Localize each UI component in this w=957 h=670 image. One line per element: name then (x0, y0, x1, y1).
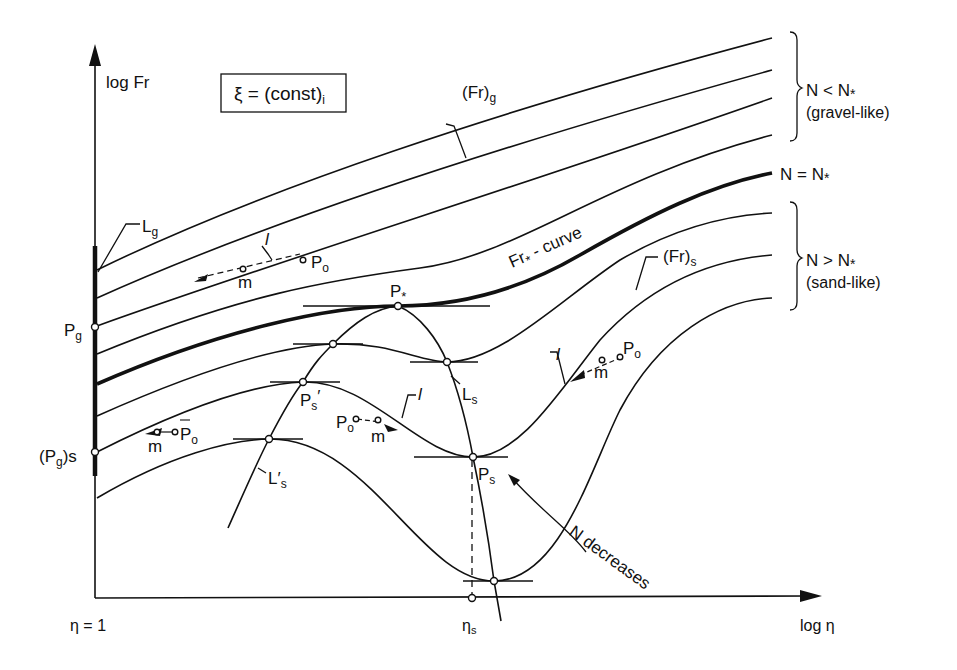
sand-like-sublabel: (sand-like) (806, 274, 881, 291)
point-p-g (92, 324, 99, 331)
point-p-s (470, 454, 477, 461)
svg-text:l: l (265, 230, 270, 249)
p-s-prime-label: Ps′ (300, 387, 321, 413)
fr-s-label: (Fr)s (663, 247, 696, 269)
sand-curves (97, 213, 772, 581)
diagram-canvas: ξ = (const)i log Fr η = 1 ηs log η N < N… (0, 0, 957, 670)
svg-text:l: l (556, 345, 561, 364)
svg-text:l: l (418, 385, 423, 404)
point-p-s-prime (300, 379, 307, 386)
n-decreases-label: N decreases (566, 522, 654, 593)
sand-like-label: N > N* (806, 251, 856, 272)
l-s-leader (451, 376, 460, 384)
gravel-like-label: N < N* (806, 81, 856, 102)
x-axis (95, 596, 808, 598)
curve-fr-s (97, 255, 772, 457)
svg-text:m: m (371, 427, 385, 446)
fr-s-leader (636, 257, 658, 290)
y-axis-label: log Fr (106, 73, 150, 92)
svg-text:Po: Po (180, 425, 198, 447)
curve-gravel-4 (97, 135, 772, 354)
x-axis-label: log η (800, 617, 835, 634)
svg-text:Po: Po (623, 339, 641, 361)
critical-label: N = N* (780, 165, 830, 186)
svg-text:ξ = (const)i: ξ = (const)i (234, 83, 325, 107)
trajectory-middle: l Po m (336, 385, 423, 446)
point-pg-s (92, 449, 99, 456)
l-g-label: Lg (142, 217, 158, 239)
fr-g-label: (Fr)g (462, 83, 496, 105)
svg-text:m: m (148, 437, 162, 456)
curve-sand-3 (97, 298, 772, 581)
y-axis-arrow-icon (89, 44, 101, 66)
curve-gravel-3 (97, 98, 772, 326)
svg-text:Po: Po (311, 253, 329, 275)
l-s-label: Ls (462, 385, 477, 407)
x-axis-arrow-icon (800, 590, 822, 602)
l-s-prime-locus (228, 306, 398, 528)
p-star-label: P* (390, 282, 406, 304)
fr-star-curve-label: Fr* - curve (506, 223, 586, 275)
svg-text:m: m (238, 273, 252, 292)
svg-text:Po: Po (336, 413, 354, 435)
svg-text:m: m (594, 363, 608, 382)
eta-s-label: ηs (462, 617, 477, 636)
gravel-like-sublabel: (gravel-like) (806, 104, 890, 121)
fr-g-leader (446, 124, 466, 158)
l-s-prime-leader (258, 468, 266, 473)
pg-s-label: (Pg)s (39, 447, 77, 469)
curve-sand-1 (97, 213, 772, 416)
froude-number-diagram: ξ = (const)i log Fr η = 1 ηs log η N < N… (0, 0, 957, 670)
trajectory-upper-left: l m Po (194, 230, 329, 292)
l-s-prime-label: L′s (268, 469, 287, 491)
l-g-leader (98, 224, 140, 272)
p-g-label: Pg (64, 321, 82, 343)
x-origin-label: η = 1 (70, 617, 106, 634)
title-box: ξ = (const)i (221, 74, 346, 112)
axes (89, 44, 822, 602)
p-s-label: Ps (478, 465, 495, 487)
point-eta-s (469, 595, 476, 602)
